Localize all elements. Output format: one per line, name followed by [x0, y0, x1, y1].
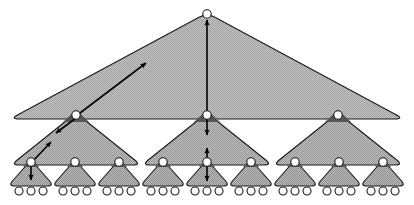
leaf-node — [279, 187, 287, 195]
level2-node — [203, 158, 211, 166]
level2-node — [247, 158, 255, 166]
leaf-node — [247, 187, 255, 195]
level1-node — [203, 111, 211, 119]
leaf-node — [59, 187, 67, 195]
level2-node — [335, 158, 343, 166]
leaf-node — [335, 187, 343, 195]
leaf-node — [171, 187, 179, 195]
level2-node — [159, 158, 167, 166]
leaf-node — [191, 187, 199, 195]
leaf-node-group — [15, 187, 399, 195]
leaf-node — [391, 187, 399, 195]
leaf-node — [71, 187, 79, 195]
level2-node — [379, 158, 387, 166]
leaf-node — [115, 187, 123, 195]
leaf-node — [147, 187, 155, 195]
leaf-node — [127, 187, 135, 195]
leaf-node — [323, 187, 331, 195]
leaf-node — [215, 187, 223, 195]
leaf-node — [39, 187, 47, 195]
leaf-node — [15, 187, 23, 195]
leaf-node — [347, 187, 355, 195]
level1-node — [334, 111, 342, 119]
leaf-node — [291, 187, 299, 195]
leaf-node — [103, 187, 111, 195]
leaf-node — [203, 187, 211, 195]
tree-diagram-svg — [0, 0, 414, 205]
leaf-node — [379, 187, 387, 195]
level2-node — [115, 158, 123, 166]
leaf-node — [235, 187, 243, 195]
leaf-node — [159, 187, 167, 195]
leaf-node — [83, 187, 91, 195]
level2-node — [71, 158, 79, 166]
level1-node — [72, 111, 80, 119]
level2-node — [291, 158, 299, 166]
level2-node — [27, 158, 35, 166]
leaf-node — [303, 187, 311, 195]
leaf-node — [259, 187, 267, 195]
leaf-node — [367, 187, 375, 195]
root-node — [203, 10, 211, 18]
diagram-canvas — [0, 0, 414, 205]
leaf-node — [27, 187, 35, 195]
